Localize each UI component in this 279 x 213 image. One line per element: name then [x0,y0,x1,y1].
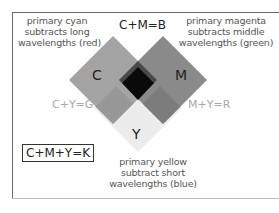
cyan-label: C [92,68,102,82]
cyan-description: primary cyan subtracts long wavelengths … [18,15,96,48]
my-mix-label: M+Y=R [188,99,230,111]
yellow-desc-line-1: primary yellow [108,156,198,167]
cm-mix-label: C+M=B [119,18,166,32]
magenta-desc-line-2: subtracts middle [178,26,274,37]
yellow-desc-line-2: subtract short [108,167,198,178]
cy-mix-label: C+Y=G [52,99,93,111]
magenta-desc-line-3: wavelengths (green) [178,37,274,48]
magenta-description: primary magenta subtracts middle wavelen… [178,15,274,48]
cyan-desc-line-3: wavelengths (red) [18,37,96,48]
magenta-label: M [175,68,187,82]
cyan-desc-line-1: primary cyan [18,15,96,26]
cyan-desc-line-2: subtracts long [18,26,96,37]
yellow-description: primary yellow subtract short wavelength… [108,156,198,189]
cmy-mix-box: C+M+Y=K [22,144,94,162]
magenta-desc-line-1: primary magenta [178,15,274,26]
yellow-desc-line-3: wavelengths (blue) [108,178,198,189]
yellow-label: Y [132,127,141,141]
